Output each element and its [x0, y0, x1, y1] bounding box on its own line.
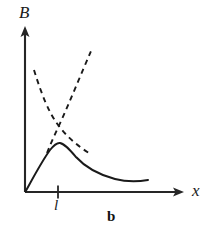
figure-caption: b: [107, 209, 115, 224]
y-axis-label: B: [19, 4, 29, 21]
figure-container: B x l b: [0, 0, 213, 238]
x-axis-label: x: [192, 182, 200, 199]
dashed-curve-falling: [34, 70, 89, 153]
solid-curve-field: [26, 143, 149, 192]
x-axis-tick-label-l: l: [54, 198, 58, 213]
plot-canvas: [0, 0, 213, 238]
